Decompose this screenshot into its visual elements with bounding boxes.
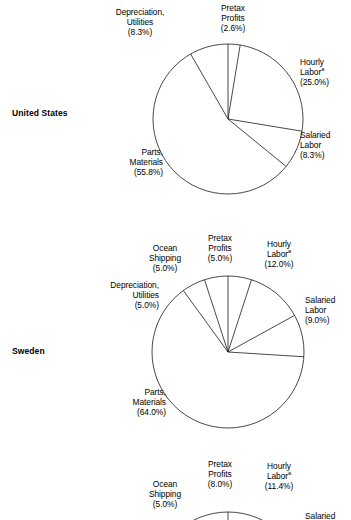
footnote-marker-a: a	[288, 248, 291, 254]
label-value: (25.0%)	[300, 78, 351, 88]
pie-slice-divider	[228, 119, 302, 131]
pie-slice-divider	[191, 54, 228, 119]
label-value: (64.0%)	[108, 408, 166, 418]
label-value: (5.0%)	[195, 254, 245, 264]
label-parts-materials: Parts, Materials (55.8%)	[105, 148, 163, 177]
label-pretax-profits: Pretax Profits (8.0%)	[195, 460, 245, 489]
region-label-sweden: Sweden	[12, 346, 45, 357]
label-value: (8.3%)	[92, 28, 188, 38]
label-value: (2.6%)	[206, 24, 260, 34]
region-label-united-states: United States	[12, 108, 68, 119]
label-value: (5.0%)	[140, 500, 190, 510]
label-parts-materials: Parts, Materials (64.0%)	[108, 388, 166, 417]
pie-chart-sweden	[147, 271, 309, 433]
label-salaried-partial: Salaried	[305, 512, 351, 520]
label-salaried-labor: Salaried Labor (9.0%)	[305, 296, 351, 325]
pie-slice-divider	[228, 352, 304, 357]
label-depreciation-utilities: Depreciation, Utilities (5.0%)	[85, 281, 159, 310]
label-pretax-profits: Pretax Profits (2.6%)	[206, 4, 260, 33]
label-value: (55.8%)	[105, 168, 163, 178]
label-salaried-labor: Salaried Labor (8.3%)	[300, 131, 351, 160]
label-line-2-text: Labor	[267, 249, 288, 259]
footnote-marker-a: a	[321, 66, 324, 72]
label-hourly-labor: Hourly Labora (11.4%)	[253, 462, 305, 491]
pie-slice-divider	[228, 119, 286, 166]
label-value: (12.0%)	[253, 260, 305, 270]
label-value: (5.0%)	[85, 301, 159, 311]
label-line-2-text: Labor	[300, 67, 321, 77]
footnote-marker-a: a	[288, 470, 291, 476]
pie-slice-divider	[205, 280, 228, 352]
label-value: (8.3%)	[300, 151, 351, 161]
label-depreciation-utilities: Depreciation, Utilities (8.3%)	[92, 8, 188, 37]
label-pretax-profits: Pretax Profits (5.0%)	[195, 234, 245, 263]
pie-slice-divider	[228, 45, 240, 119]
label-ocean-shipping: Ocean Shipping (5.0%)	[140, 480, 190, 509]
label-hourly-labor: Hourly Labora (12.0%)	[253, 240, 305, 269]
label-line-1: Salaried	[305, 512, 351, 520]
pie-chart-united-states	[148, 39, 308, 199]
label-line-2-text: Labor	[267, 471, 288, 481]
pie-slice-divider	[183, 291, 228, 352]
label-value: (5.0%)	[140, 264, 190, 274]
label-ocean-shipping: Ocean Shipping (5.0%)	[140, 244, 190, 273]
label-hourly-labor: Hourly Labora (25.0%)	[300, 58, 351, 87]
label-value: (8.0%)	[195, 480, 245, 490]
label-value: (9.0%)	[305, 316, 351, 326]
label-value: (11.4%)	[253, 482, 305, 492]
